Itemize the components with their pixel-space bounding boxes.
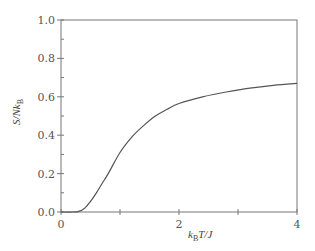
y-axis-label: S/NkB bbox=[10, 99, 25, 125]
x-tick-label: 2 bbox=[176, 218, 183, 231]
x-tick-label: 4 bbox=[294, 218, 301, 231]
plot-frame bbox=[61, 20, 297, 212]
y-tick-label: 0.0 bbox=[38, 206, 56, 219]
entropy-curve bbox=[61, 83, 297, 212]
y-tick-label: 0.8 bbox=[38, 52, 56, 65]
entropy-chart: 0.00.20.40.60.81.0 024 kBT/J S/NkB bbox=[0, 0, 315, 251]
x-tick-label: 0 bbox=[58, 218, 65, 231]
plot-border bbox=[61, 20, 297, 212]
y-axis: 0.00.20.40.60.81.0 bbox=[38, 14, 65, 219]
x-axis-label: kBT/J bbox=[188, 228, 213, 243]
y-tick-label: 0.6 bbox=[38, 91, 56, 104]
y-tick-label: 0.4 bbox=[38, 129, 56, 142]
y-tick-label: 0.2 bbox=[38, 168, 56, 181]
y-tick-label: 1.0 bbox=[38, 14, 56, 27]
